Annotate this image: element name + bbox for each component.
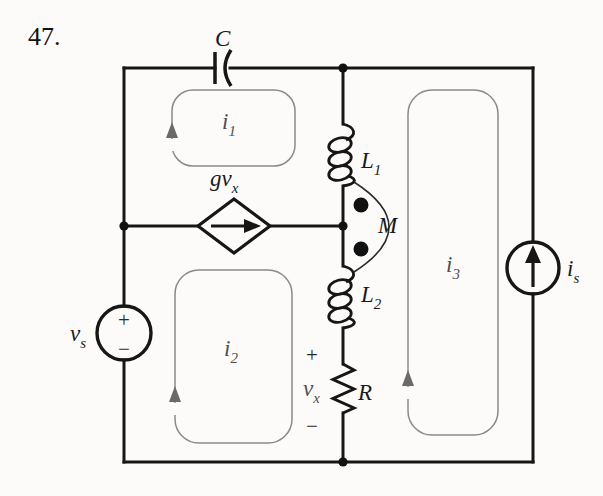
current-source-label: is — [567, 256, 579, 286]
mesh-i1-gap — [167, 139, 177, 151]
current-source-arrow-head — [525, 245, 541, 263]
capacitor-label: C — [215, 26, 231, 51]
controlled-source-icon — [198, 199, 270, 253]
voltage-source-plus: + — [118, 308, 130, 332]
mutual-label: M — [377, 213, 399, 238]
wires — [124, 68, 533, 462]
voltage-source-icon: + − — [97, 306, 151, 361]
circuit-diagram: 47. i1 i2 i3 — [0, 0, 603, 496]
coupling-dot-bottom — [354, 242, 369, 257]
coupling-dot-top — [354, 198, 369, 213]
mesh-label-i2: i2 — [224, 336, 238, 366]
inductor-l1-icon — [327, 124, 354, 186]
resistor-icon — [333, 364, 354, 413]
mesh-i3-gap — [403, 387, 413, 399]
inductor-l2-icon — [327, 266, 354, 328]
controlled-source-label: gvx — [210, 166, 239, 196]
mesh-i3: i3 — [402, 90, 498, 435]
voltage-source-minus: − — [118, 337, 130, 361]
inductor-l2-label: L2 — [360, 282, 382, 312]
vx-plus-sign: + — [306, 343, 318, 367]
mesh-i2: i2 — [169, 270, 292, 443]
mesh-arrow-i2 — [169, 386, 181, 402]
mesh-label-i1: i1 — [222, 109, 236, 139]
current-source-icon — [507, 242, 559, 294]
mesh-loop-i3 — [408, 90, 498, 435]
node-dot-bottom — [338, 457, 347, 466]
mesh-arrow-i1 — [166, 122, 178, 138]
mesh-label-i3: i3 — [446, 252, 460, 282]
mesh-i1: i1 — [166, 90, 295, 166]
mesh-i2-gap — [170, 403, 180, 415]
page: 47. i1 i2 i3 — [0, 0, 603, 496]
problem-number: 47. — [28, 22, 61, 51]
vx-minus-sign: − — [306, 414, 318, 438]
node-dot-top — [338, 63, 347, 72]
node-dot-left — [119, 221, 128, 230]
voltage-source-label: vs — [70, 321, 86, 351]
vx-label: vx — [303, 376, 320, 406]
resistor-label: R — [357, 380, 372, 405]
node-dot-middle — [338, 221, 347, 230]
mesh-arrow-i3 — [402, 370, 414, 386]
inductor-l1-label: L1 — [360, 148, 381, 178]
